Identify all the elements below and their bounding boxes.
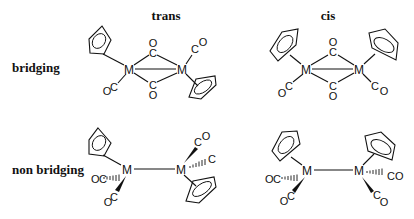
metal-atom: M <box>354 164 364 178</box>
wedge-bond <box>115 176 126 192</box>
carbon-atom: C <box>273 173 281 185</box>
structure-cis-bridging: M M C O C O C O C O <box>270 29 398 102</box>
cp-ring-icon <box>189 76 216 99</box>
cp-ring-icon <box>89 26 111 54</box>
oxygen-atom: O <box>202 130 211 142</box>
oxygen-atom: O <box>395 170 404 182</box>
oxygen-atom: O <box>278 87 287 99</box>
carbon-atom: C <box>99 173 107 185</box>
oxygen-atom: O <box>380 85 389 97</box>
oxygen-atom: O <box>103 85 112 97</box>
oxygen-atom: O <box>199 36 208 48</box>
cp-ring-icon <box>365 132 395 160</box>
oxygen-atom: O <box>149 37 158 49</box>
row-header-bridging: bridging <box>12 60 60 75</box>
oxygen-atom: O <box>380 196 389 208</box>
oxygen-atom: O <box>104 196 113 208</box>
structure-trans-non-bridging: M M O C C O C O C <box>89 128 216 208</box>
hashed-bond <box>367 169 382 176</box>
organometallic-isomer-diagram: trans cis bridging non bridging M M C O … <box>0 0 414 219</box>
oxygen-atom: O <box>280 195 289 207</box>
oxygen-atom: O <box>149 89 158 101</box>
column-header-cis: cis <box>321 8 335 23</box>
cp-ring-icon <box>272 131 300 161</box>
carbon-atom: C <box>387 170 395 182</box>
structure-trans-bridging: M M C O C O C O C O <box>89 26 216 101</box>
carbon-atom: C <box>371 80 379 92</box>
metal-atom: M <box>122 163 132 177</box>
row-header-non-bridging: non bridging <box>12 162 84 177</box>
wedge-bond <box>184 147 198 163</box>
cp-ring-icon <box>270 29 298 61</box>
metal-atom: M <box>302 164 312 178</box>
oxygen-atom: O <box>329 36 338 48</box>
oxygen-atom: O <box>329 90 338 102</box>
structure-cis-non-bridging: M M O C C O C O C O <box>265 131 404 208</box>
metal-atom: M <box>177 63 187 77</box>
metal-atom: M <box>354 63 364 77</box>
cp-ring-icon <box>89 128 111 156</box>
carbon-atom: C <box>208 153 216 165</box>
column-header-trans: trans <box>152 8 181 23</box>
hashed-bond <box>282 175 297 182</box>
hashed-bond <box>190 159 205 168</box>
